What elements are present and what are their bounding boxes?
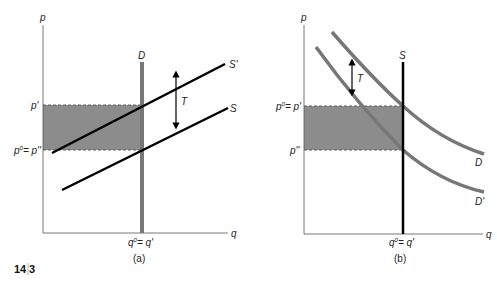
figure-number: 14 3 [14, 263, 35, 275]
demand-shifted-label-b: D' [475, 196, 485, 207]
quantity-label-a: q0= q' [128, 237, 154, 248]
price-upper-label-b: p0= p' [275, 101, 302, 112]
supply-label-a: S [230, 103, 237, 114]
supply-shifted-label-a: S' [229, 59, 239, 70]
figure-chapter: 14 [14, 263, 27, 275]
caption-a: (a) [133, 253, 145, 264]
x-axis-label-b: q [486, 229, 492, 240]
quantity-label-b: q0= q' [389, 237, 415, 248]
price-lower-label-b: p'' [289, 145, 300, 156]
price-lower-label-a: p0= p'' [13, 145, 42, 156]
figure-index: 3 [29, 263, 35, 275]
supply-label-b: S [399, 50, 406, 61]
price-upper-label-a: p' [30, 100, 40, 111]
demand-label-a: D [138, 50, 145, 61]
y-axis-label-b: p [300, 12, 307, 23]
x-axis-label-a: q [231, 228, 237, 239]
panel-a: T p q D S' S p' p0= p'' q0= q' (a) [13, 12, 239, 264]
caption-b: (b) [394, 253, 406, 264]
tax-label-b: T [357, 73, 364, 84]
tax-revenue-area-b [304, 106, 403, 150]
tax-revenue-area-a [43, 105, 142, 150]
demand-label-b: D [475, 157, 482, 168]
tax-label-a: T [181, 96, 188, 107]
figure-canvas: T p q D S' S p' p0= p'' q0= q' (a) T p q… [0, 0, 497, 282]
panel-b: T p q S D D' p0= p' p'' q0= q' (b) [275, 12, 492, 264]
y-axis-label-a: p [39, 12, 46, 23]
